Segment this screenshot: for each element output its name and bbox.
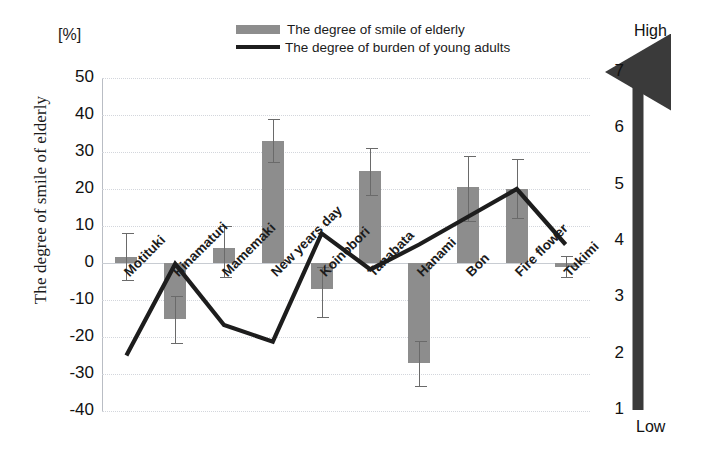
gridline (102, 411, 590, 412)
left-tick-label: 50 (50, 67, 94, 87)
legend-line-swatch-icon (236, 45, 280, 49)
left-tick-label: 30 (50, 141, 94, 161)
chart-legend: The degree of smile of elderly The degre… (236, 20, 510, 56)
legend-bar-label: The degree of smile of elderly (287, 22, 465, 37)
left-tick-label: 10 (50, 215, 94, 235)
right-tick-label: 3 (604, 286, 624, 306)
right-axis-low-label: Low (636, 418, 665, 436)
burden-arrow-icon (628, 58, 664, 418)
right-tick-label: 7 (604, 61, 624, 81)
left-axis-unit-label: [%] (58, 26, 81, 44)
legend-item-bar: The degree of smile of elderly (236, 20, 510, 38)
legend-item-line: The degree of burden of young adults (236, 38, 510, 56)
right-tick-label: 1 (604, 399, 624, 419)
left-axis-title: The degree of smile of elderly (31, 65, 51, 335)
right-tick-label: 4 (604, 230, 624, 250)
right-tick-label: 2 (604, 343, 624, 363)
right-tick-label: 6 (604, 117, 624, 137)
right-axis: High Low 7654321 The degree of burden (600, 0, 716, 456)
right-axis-high-label: High (634, 22, 667, 40)
left-tick-label: 0 (50, 252, 94, 272)
left-tick-label: 20 (50, 178, 94, 198)
right-tick-label: 5 (604, 174, 624, 194)
legend-line-label: The degree of burden of young adults (285, 40, 510, 55)
left-tick-label: -40 (50, 400, 94, 420)
left-tick-label: -20 (50, 326, 94, 346)
left-tick-label: -30 (50, 363, 94, 383)
combo-chart: [%] The degree of smile of elderly 50403… (0, 0, 716, 456)
legend-bar-swatch-icon (236, 25, 280, 34)
left-tick-label: 40 (50, 104, 94, 124)
left-tick-label: -10 (50, 289, 94, 309)
